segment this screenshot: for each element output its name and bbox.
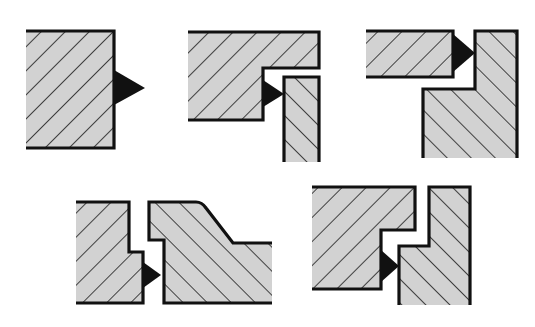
- fillet-weld-bead: [381, 250, 399, 282]
- joint-4: [76, 202, 272, 303]
- stepped-plate-part: [76, 202, 143, 303]
- joint-2: [188, 32, 319, 162]
- joint-1: [26, 31, 145, 148]
- tapered-plate-part: [149, 202, 272, 303]
- fillet-weld-bead: [263, 80, 284, 107]
- weld-joints-diagram: [0, 0, 535, 327]
- joint-3: [366, 31, 517, 158]
- fillet-weld-bead: [143, 262, 161, 288]
- fillet-weld-bead: [453, 34, 475, 72]
- vertical-plate-part: [284, 77, 319, 162]
- fillet-weld-bead: [114, 70, 145, 105]
- plate-part: [26, 31, 114, 148]
- joint-5: [312, 187, 470, 305]
- flat-bar-part: [366, 31, 453, 77]
